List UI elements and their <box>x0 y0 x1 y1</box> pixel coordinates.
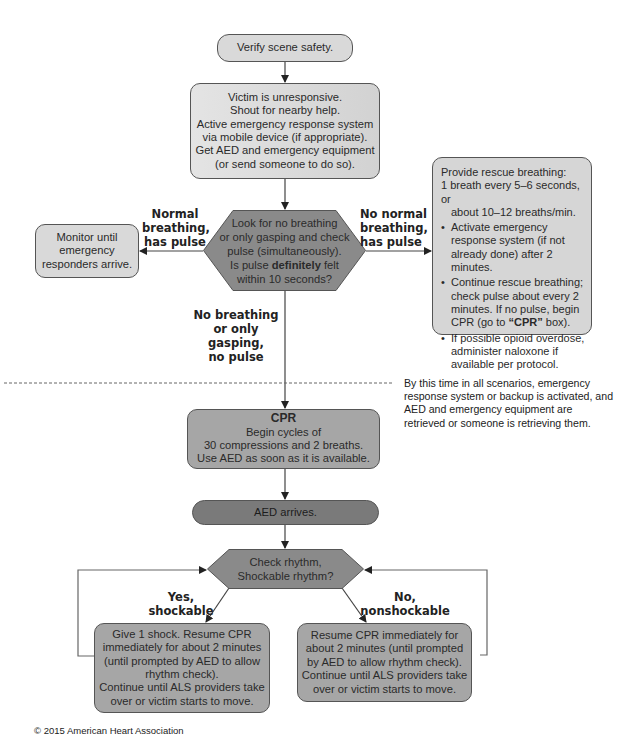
nonshock-line: Continue until ALS providers take <box>302 669 467 682</box>
label-line: has pulse <box>360 235 436 249</box>
shock-line: immediately for about 2 minutes <box>103 641 262 654</box>
rescue-bullet-list: Activate emergency response system (if n… <box>441 221 585 371</box>
shock-line: over or victim starts to move. <box>111 695 254 708</box>
label-line: Normal <box>142 207 208 221</box>
label-line: Yes, <box>146 590 216 604</box>
shock-line: (until prompted by AED to allow <box>104 655 260 668</box>
assess-line: Active emergency response system <box>197 118 374 131</box>
aed-arrives-box: AED arrives. <box>192 500 379 525</box>
nonshock-line: Resume CPR immediately for <box>311 629 458 642</box>
assess-victim-box: Victim is unresponsive. Shout for nearby… <box>190 83 380 179</box>
label-line: No normal <box>360 207 436 221</box>
assess-line: (or send someone to do so). <box>215 158 355 171</box>
shock-line: rhythm check). <box>145 668 218 681</box>
nonshock-line: over or victim starts to move. <box>313 683 456 696</box>
assess-line: via mobile device (if appropriate). <box>203 131 368 144</box>
rescue-bullet: Continue rescue breathing; check pulse a… <box>441 276 585 329</box>
nonshock-line: by AED to allow rhythm check). <box>307 656 462 669</box>
rescue-bullet: If possible opioid overdose, administer … <box>441 332 585 372</box>
copyright: © 2015 American Heart Association <box>34 725 184 736</box>
rescue-breathing-box: Provide rescue breathing: 1 breath every… <box>432 157 592 335</box>
label-line: nonshockable <box>360 604 450 618</box>
rescue-intro: 1 breath every 5–6 seconds, or <box>441 179 585 206</box>
label-line: No, <box>360 590 450 604</box>
no-normal-breathing-label: No normal breathing, has pulse <box>360 207 436 249</box>
pulse-check-line: within 10 seconds? <box>237 272 332 286</box>
cpr-line: Begin cycles of <box>246 426 321 439</box>
pulse-check-decision: Look for no breathing or only gasping an… <box>203 210 366 291</box>
pulse-check-bold: definitely <box>272 259 321 271</box>
verify-scene-safety-text: Verify scene safety. <box>237 41 333 54</box>
rhythm-check-line: Check rhythm, <box>249 555 321 569</box>
rhythm-check-line: Shockable rhythm? <box>238 569 334 583</box>
label-line: no pulse <box>188 350 284 364</box>
label-line: breathing, <box>142 221 208 235</box>
monitor-line: Monitor until <box>57 231 118 244</box>
rescue-bullet-text: box). <box>543 316 571 328</box>
shock-box: Give 1 shock. Resume CPR immediately for… <box>94 623 270 713</box>
assess-line: Shout for nearby help. <box>230 104 340 117</box>
assess-line: Get AED and emergency equipment <box>195 144 374 157</box>
shockable-label: Yes, shockable <box>146 590 216 618</box>
nonshockable-label: No, nonshockable <box>360 590 450 618</box>
cpr-box: CPR Begin cycles of 30 compressions and … <box>187 409 380 469</box>
cpr-line: Use AED as soon as it is available. <box>197 452 370 465</box>
pulse-check-pre: Is pulse <box>230 259 272 271</box>
pulse-check-line: pulse (simultaneously). <box>227 244 341 258</box>
monitor-line: responders arrive. <box>42 258 132 271</box>
scenario-note: By this time in all scenarios, emergency… <box>404 377 614 430</box>
shock-line: Give 1 shock. Resume CPR <box>112 628 251 641</box>
pulse-check-post: felt <box>321 259 339 271</box>
cpr-reference: “CPR” <box>508 316 542 328</box>
monitor-box: Monitor until emergency responders arriv… <box>35 224 139 278</box>
aed-arrives-text: AED arrives. <box>254 506 317 519</box>
cpr-line: 30 compressions and 2 breaths. <box>204 439 363 452</box>
nonshock-box: Resume CPR immediately for about 2 minut… <box>297 623 472 702</box>
monitor-line: emergency <box>59 244 114 257</box>
rescue-bullet: Activate emergency response system (if n… <box>441 221 585 274</box>
label-line: shockable <box>146 604 216 618</box>
verify-scene-safety-box: Verify scene safety. <box>217 34 353 62</box>
pulse-check-line: Look for no breathing <box>232 216 338 230</box>
label-line: has pulse <box>142 235 208 249</box>
label-line: or only gasping, <box>188 322 284 350</box>
normal-breathing-label: Normal breathing, has pulse <box>142 207 208 249</box>
rhythm-check-decision: Check rhythm, Shockable rhythm? <box>207 549 364 589</box>
assess-line: Victim is unresponsive. <box>228 91 342 104</box>
cpr-title: CPR <box>271 412 296 425</box>
nonshock-line: about 2 minutes (until prompted <box>306 642 463 655</box>
shock-line: Continue until ALS providers take <box>99 681 264 694</box>
label-line: breathing, <box>360 221 436 235</box>
no-breathing-label: No breathing or only gasping, no pulse <box>188 308 284 364</box>
rescue-intro: Provide rescue breathing: <box>441 166 585 179</box>
rescue-intro: about 10–12 breaths/min. <box>441 206 585 219</box>
pulse-check-line: Is pulse definitely felt <box>230 258 339 272</box>
label-line: No breathing <box>188 308 284 322</box>
pulse-check-line: or only gasping and check <box>220 230 350 244</box>
